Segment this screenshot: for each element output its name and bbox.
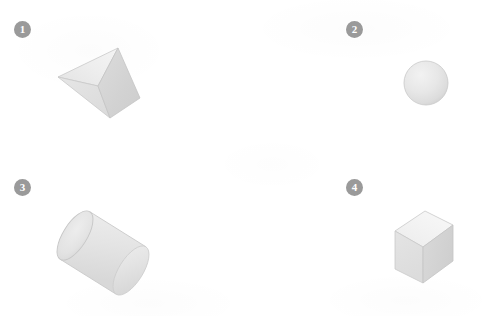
triangular-prism-shape[interactable] bbox=[50, 38, 150, 128]
cube-shape[interactable] bbox=[391, 203, 471, 293]
badge-4: 4 bbox=[346, 179, 363, 196]
badge-3: 3 bbox=[14, 179, 31, 196]
worksheet-canvas: 1 bbox=[0, 0, 495, 316]
badge-2: 2 bbox=[346, 21, 363, 38]
sphere-body bbox=[404, 61, 448, 105]
badge-1: 1 bbox=[14, 21, 31, 38]
sphere-shape[interactable] bbox=[398, 55, 458, 115]
shape-panel-2[interactable]: 2 bbox=[248, 0, 495, 158]
cylinder-shape[interactable] bbox=[48, 203, 158, 303]
shape-panel-1[interactable]: 1 bbox=[0, 0, 248, 158]
shape-panel-3[interactable]: 3 bbox=[0, 158, 248, 316]
shape-panel-4[interactable]: 4 bbox=[248, 158, 495, 316]
